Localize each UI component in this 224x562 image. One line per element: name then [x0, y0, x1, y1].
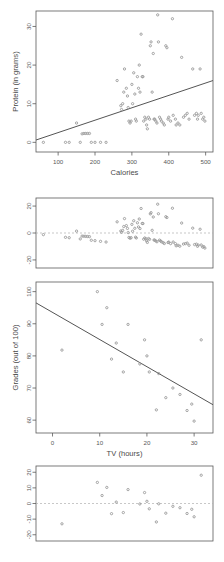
data-point — [200, 339, 202, 341]
data-point — [171, 207, 173, 209]
data-point — [126, 95, 128, 97]
data-point — [133, 72, 135, 74]
data-point — [136, 222, 138, 224]
statistics-figure: 0102030100200300400500CaloriesProtein (i… — [0, 0, 224, 562]
data-point — [131, 103, 133, 105]
data-point — [148, 371, 150, 373]
y-tick-label: -10 — [25, 514, 32, 524]
data-point — [96, 290, 98, 292]
data-point — [125, 87, 127, 89]
y-tick-label: 0 — [25, 140, 32, 144]
scatter-points — [42, 203, 206, 249]
panel-protein-calories: 0102030100200300400500CaloriesProtein (i… — [0, 6, 224, 184]
data-point — [122, 511, 124, 513]
data-point — [143, 339, 145, 341]
data-point — [131, 83, 133, 85]
data-point — [196, 118, 198, 120]
data-point — [140, 33, 142, 35]
data-point — [115, 342, 117, 344]
data-point — [139, 227, 141, 229]
data-point — [110, 513, 112, 515]
data-point — [204, 120, 206, 122]
data-point — [101, 494, 103, 496]
scatter-points — [61, 474, 203, 525]
y-tick-label: 80 — [25, 352, 32, 359]
data-point — [186, 409, 188, 411]
data-point — [146, 128, 148, 130]
panel-protein-residuals-canvas: 200-20 — [0, 184, 224, 276]
regression-line — [36, 303, 213, 405]
data-point — [105, 141, 107, 143]
data-point — [125, 224, 127, 226]
data-point — [115, 501, 117, 503]
data-point — [179, 245, 181, 247]
data-point — [181, 56, 183, 58]
data-point — [94, 141, 96, 143]
data-point — [172, 505, 174, 507]
data-point — [138, 64, 140, 66]
data-point — [88, 235, 90, 237]
data-point — [151, 91, 153, 93]
data-point — [165, 397, 167, 399]
x-axis-title: TV (hours) — [107, 449, 143, 458]
data-point — [99, 240, 101, 242]
data-point — [181, 222, 183, 224]
data-point — [130, 120, 132, 122]
data-point — [172, 114, 174, 116]
data-point — [42, 233, 44, 235]
data-point — [172, 387, 174, 389]
data-point — [169, 242, 171, 244]
data-point — [186, 242, 188, 244]
data-point — [203, 116, 205, 118]
data-point — [106, 486, 108, 488]
data-point — [123, 68, 125, 70]
data-point — [133, 220, 135, 222]
data-point — [199, 228, 201, 230]
y-tick-label: 20 — [25, 61, 32, 68]
data-point — [138, 218, 140, 220]
data-point — [163, 124, 165, 126]
data-point — [135, 120, 137, 122]
panel-grades-residuals-canvas: 20100-10-20 — [0, 462, 224, 562]
y-tick-label: 100 — [25, 286, 32, 297]
y-tick-label: 70 — [25, 384, 32, 391]
panel-grades-tv: 607080901000102030TV (hours)Grades (out … — [0, 276, 224, 462]
data-point — [101, 323, 103, 325]
data-point — [110, 358, 112, 360]
data-point — [191, 508, 193, 510]
data-point — [105, 241, 107, 243]
data-point — [134, 93, 136, 95]
data-point — [79, 238, 81, 240]
data-point — [169, 120, 171, 122]
y-tick-label: 30 — [25, 22, 32, 29]
data-point — [197, 114, 199, 116]
data-point — [152, 52, 154, 54]
data-point — [165, 512, 167, 514]
data-point — [204, 247, 206, 249]
data-point — [88, 132, 90, 134]
data-point — [191, 403, 193, 405]
x-tick-label: 400 — [164, 158, 175, 165]
data-point — [42, 141, 44, 143]
data-point — [200, 474, 202, 476]
data-point — [96, 481, 98, 483]
data-point — [146, 355, 148, 357]
data-point — [179, 507, 181, 509]
panel-protein-residuals: 200-20 — [0, 184, 224, 276]
data-point — [64, 141, 66, 143]
data-point — [146, 500, 148, 502]
y-axis-title: Protein (in grams) — [11, 51, 20, 112]
data-point — [188, 118, 190, 120]
data-point — [90, 239, 92, 241]
data-point — [157, 41, 159, 43]
data-point — [146, 241, 148, 243]
data-point — [139, 503, 141, 505]
data-point — [75, 230, 77, 232]
data-point — [200, 112, 202, 114]
data-point — [193, 516, 195, 518]
data-point — [171, 18, 173, 20]
data-point — [127, 231, 129, 233]
data-point — [131, 230, 133, 232]
data-point — [145, 124, 147, 126]
data-point — [134, 227, 136, 229]
